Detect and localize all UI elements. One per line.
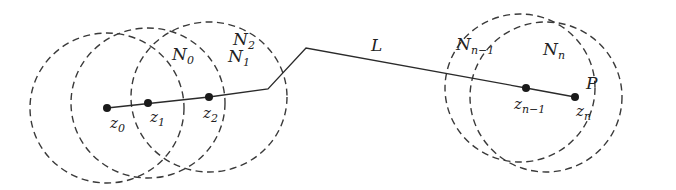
neighborhood-label: N0 — [171, 44, 194, 67]
neighborhood-label: N2 — [232, 29, 255, 52]
point-label: z0 — [109, 114, 125, 135]
neighborhood-circles — [30, 14, 622, 183]
point-zn — [571, 93, 579, 101]
neighborhood-label: N1 — [227, 46, 250, 69]
point-z0 — [103, 104, 111, 112]
path-points — [103, 84, 579, 112]
neighborhood-chain-diagram: L P N0N1N2Nn−1Nnz0z1z2zn−1zn — [0, 0, 676, 190]
point-zn-1 — [522, 84, 530, 92]
point-z2 — [205, 93, 213, 101]
neighborhood-label: Nn−1 — [455, 34, 494, 57]
point-label: zn−1 — [513, 95, 545, 116]
point-label: zn — [575, 102, 591, 123]
point-label: z1 — [149, 108, 165, 129]
point-label: z2 — [202, 104, 218, 125]
endpoint-label-P: P — [585, 73, 598, 93]
path-label-L: L — [370, 35, 382, 55]
labels: L P N0N1N2Nn−1Nnz0z1z2zn−1zn — [109, 29, 598, 135]
point-z1 — [144, 99, 152, 107]
neighborhood-label: Nn — [542, 39, 565, 62]
